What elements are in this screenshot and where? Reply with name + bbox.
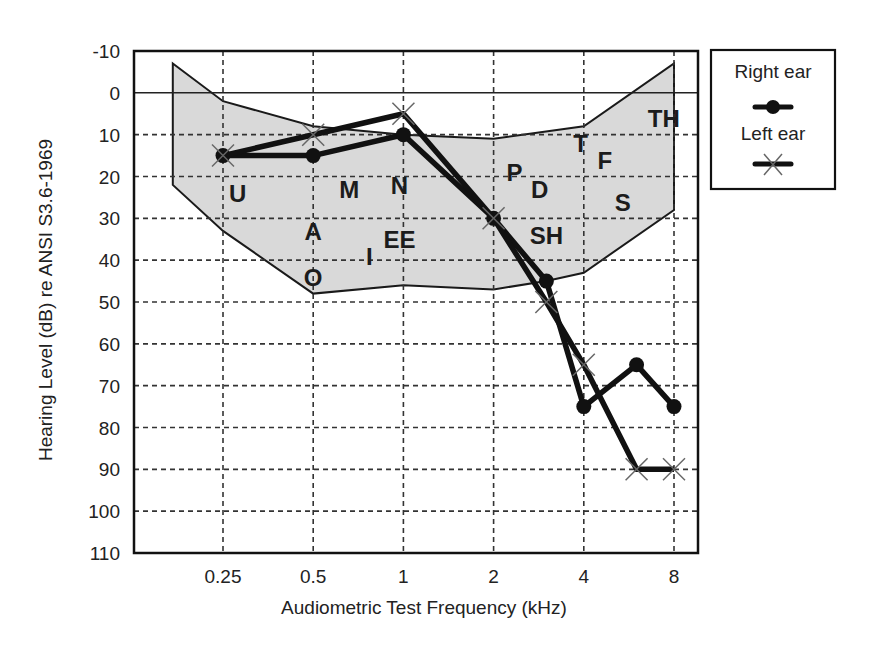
filled-circle-marker-icon: [576, 399, 591, 414]
y-tick-label: 70: [99, 376, 120, 397]
y-axis-title: Hearing Level (dB) re ANSI S3.6-1969: [35, 139, 56, 461]
y-tick-label: -10: [93, 41, 120, 62]
phoneme-label: D: [531, 176, 548, 203]
speech-banana-polygon: [173, 64, 674, 294]
legend: Right ear Left ear: [711, 50, 835, 189]
y-tick-label: 80: [99, 418, 120, 439]
phoneme-label: U: [229, 180, 246, 207]
legend-left-ear-label: Left ear: [741, 123, 806, 144]
y-tick-label: 60: [99, 334, 120, 355]
legend-right-ear-label: Right ear: [734, 61, 812, 82]
x-tick-label: 2: [488, 566, 499, 587]
phoneme-label: TH: [648, 105, 680, 132]
speech-banana-region: [173, 64, 674, 294]
phoneme-label: T: [573, 130, 588, 157]
y-tick-label: 100: [88, 501, 120, 522]
phoneme-label: M: [339, 176, 359, 203]
x-tick-label: 4: [579, 566, 590, 587]
y-tick-label: 30: [99, 208, 120, 229]
y-tick-label: 0: [109, 83, 120, 104]
x-tick-label: 0.5: [300, 566, 326, 587]
phoneme-label: EE: [383, 226, 415, 253]
phoneme-label: P: [507, 159, 523, 186]
y-tick-label: 50: [99, 292, 120, 313]
x-tick-label: 0.25: [205, 566, 242, 587]
phoneme-label: F: [597, 147, 612, 174]
y-tick-label: 90: [99, 459, 120, 480]
audiogram-chart: UMNAEEIOPDSHTFSTH -100102030405060708090…: [0, 0, 871, 654]
filled-circle-marker-icon: [396, 127, 411, 142]
filled-circle-marker-icon: [667, 399, 682, 414]
x-axis-ticks: 0.250.51248: [205, 566, 680, 587]
x-tick-label: 8: [669, 566, 680, 587]
phoneme-label: S: [615, 189, 631, 216]
filled-circle-marker-icon: [306, 148, 321, 163]
filled-circle-marker-icon: [766, 100, 780, 114]
phoneme-label: N: [391, 172, 408, 199]
y-tick-label: 40: [99, 250, 120, 271]
x-tick-label: 1: [398, 566, 409, 587]
filled-circle-marker-icon: [539, 274, 554, 289]
y-tick-label: 10: [99, 125, 120, 146]
phoneme-label: O: [304, 264, 323, 291]
phoneme-label: A: [305, 218, 322, 245]
y-tick-label: 20: [99, 167, 120, 188]
phoneme-label: SH: [530, 222, 563, 249]
y-tick-label: 110: [90, 543, 120, 564]
phoneme-label: I: [366, 243, 373, 270]
filled-circle-marker-icon: [629, 357, 644, 372]
x-axis-title: Audiometric Test Frequency (kHz): [281, 597, 567, 618]
y-axis-ticks: -100102030405060708090100110: [88, 41, 120, 564]
